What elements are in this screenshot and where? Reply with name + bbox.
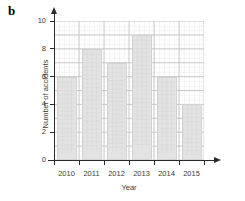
x-tick-mark: [154, 160, 155, 165]
y-axis-title-wrap: Number of accidents: [30, 28, 42, 148]
x-tick-mark: [79, 160, 80, 165]
x-tick-mark: [129, 160, 130, 165]
x-tick-mark: [54, 160, 55, 165]
y-axis-title: Number of accidents: [42, 34, 50, 154]
x-tick-mark: [179, 160, 180, 165]
x-tick-mark: [204, 160, 205, 165]
x-tick-mark: [104, 160, 105, 165]
x-axis-title: Year: [54, 184, 204, 192]
x-tick-label-2015: 2015: [175, 170, 209, 178]
bar-chart-figure: b: [0, 0, 245, 201]
